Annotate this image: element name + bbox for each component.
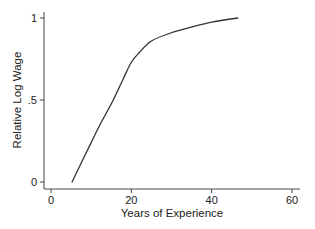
x-axis-title: Years of Experience — [121, 207, 224, 219]
x-tick-label: 60 — [286, 194, 298, 206]
x-tick-label: 40 — [206, 194, 218, 206]
y-axis-title: Relative Log Wage — [11, 52, 23, 149]
plot-area — [72, 18, 238, 182]
y-tick-label: 1 — [31, 12, 37, 24]
series-line — [72, 18, 238, 182]
x-tick-label: 0 — [48, 194, 54, 206]
y-axis: 0.51 Relative Log Wage — [11, 12, 44, 189]
y-tick-label: .5 — [28, 94, 37, 106]
line-chart: 0.51 Relative Log Wage 0204060 Years of … — [0, 0, 315, 229]
y-tick-label: 0 — [31, 176, 37, 188]
x-tick-label: 20 — [125, 194, 137, 206]
x-axis: 0204060 Years of Experience — [44, 189, 300, 219]
